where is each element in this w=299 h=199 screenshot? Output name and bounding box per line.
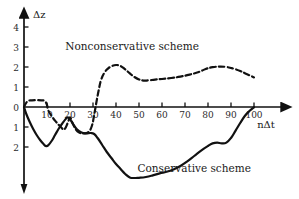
y-tick-label-3: 3 [13, 43, 19, 53]
y-tick-label-2: 2 [13, 63, 19, 73]
annotation-nonconservative: Nonconservative scheme [65, 40, 199, 52]
x-tick-label-50: 50 [133, 110, 145, 120]
figure-plot-delta-z-vs-n-delta-t: 4 3 2 1 0 1 2 Δz 10 [0, 0, 299, 199]
x-tick-label-70: 70 [179, 110, 191, 120]
annotation-conservative: Conservative scheme [137, 162, 250, 174]
y-tick-label-4: 4 [13, 23, 19, 33]
x-tick-label-60: 60 [156, 110, 168, 120]
y-tick-label-1: 1 [13, 83, 19, 93]
y-tick-label-neg2: 2 [13, 143, 19, 153]
x-axis-title: nΔt [257, 119, 275, 130]
chart-canvas: 4 3 2 1 0 1 2 Δz 10 [0, 0, 299, 199]
y-tick-label-neg1: 1 [13, 123, 19, 133]
y-tick-label-0: 0 [13, 103, 19, 113]
series-line-nonconservative [24, 65, 254, 133]
x-tick-label-90: 90 [225, 110, 237, 120]
y-axis-title: Δz [33, 9, 46, 20]
x-tick-label-80: 80 [202, 110, 214, 120]
y-axis-bottom-arrow [21, 184, 28, 194]
x-tick-label-40: 40 [110, 110, 122, 120]
